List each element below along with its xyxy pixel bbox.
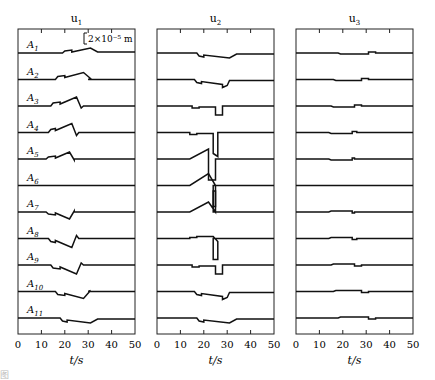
x-tick-label: 20: [336, 339, 349, 350]
trace-A11: [296, 317, 413, 319]
trace-A3: [296, 105, 413, 107]
svg-text:2×10⁻⁵ m: 2×10⁻⁵ m: [88, 34, 133, 44]
trace-A10: [18, 291, 135, 299]
panel-frame: [296, 29, 413, 334]
trace-label: A5: [26, 145, 39, 159]
x-tick-label: 0: [154, 339, 160, 350]
trace-A2: [296, 79, 413, 81]
trace-A3: [157, 106, 274, 115]
trace-A11: [157, 318, 274, 323]
trace-A2: [157, 80, 274, 88]
x-tick-label: 50: [268, 339, 281, 350]
x-tick-label: 0: [293, 339, 299, 350]
trace-A4: [296, 132, 413, 134]
panel-2: u201020304050t/s: [154, 12, 281, 367]
x-tick-label: 20: [197, 339, 210, 350]
trace-A7: [296, 211, 413, 213]
trace-A1: [296, 52, 413, 54]
trace-label: A6: [26, 172, 39, 186]
x-tick-label: 10: [313, 339, 326, 350]
trace-A9: [296, 264, 413, 266]
trace-A10: [157, 292, 274, 300]
trace-A4: [157, 133, 274, 157]
panel-frame: [157, 29, 274, 334]
trace-A7: [157, 191, 274, 212]
trace-label: A9: [26, 251, 39, 265]
trace-A9: [157, 265, 274, 274]
trace-A7: [18, 211, 135, 219]
trace-label: A1: [26, 39, 39, 53]
trace-label: A10: [26, 278, 44, 292]
trace-label: A7: [26, 198, 39, 212]
x-axis-label: t/s: [70, 354, 84, 367]
x-tick-label: 20: [58, 339, 71, 350]
x-tick-label: 10: [174, 339, 187, 350]
panel-title: u3: [349, 12, 361, 27]
scale-bar: 2×10⁻⁵ m: [84, 33, 133, 44]
trace-A8: [296, 238, 413, 240]
trace-label: A4: [26, 119, 39, 133]
x-tick-label: 50: [407, 339, 420, 350]
trace-label: A11: [26, 304, 43, 318]
x-tick-label: 10: [35, 339, 48, 350]
x-tick-label: 40: [244, 339, 257, 350]
trace-A10: [296, 291, 413, 293]
panel-1: u101020304050t/sA1A2A3A4A5A6A7A8A9A10A11…: [15, 12, 142, 367]
x-tick-label: 30: [82, 339, 95, 350]
trace-label: A2: [26, 66, 39, 80]
panel-title: u1: [71, 12, 83, 27]
x-tick-label: 40: [383, 339, 396, 350]
trace-A5: [157, 149, 274, 180]
x-axis-label: t/s: [348, 354, 362, 367]
trace-A8: [157, 237, 274, 260]
x-tick-label: 0: [15, 339, 21, 350]
x-tick-label: 40: [105, 339, 118, 350]
figure-caption: 图: [0, 368, 435, 380]
panel-title: u2: [210, 12, 222, 27]
trace-label: A3: [26, 92, 39, 106]
x-tick-label: 30: [360, 339, 373, 350]
x-tick-label: 50: [129, 339, 142, 350]
trace-label: A8: [26, 225, 39, 239]
trace-A5: [296, 158, 413, 160]
panel-3: u301020304050t/s: [293, 12, 420, 367]
trace-A11: [18, 318, 135, 323]
figure: u101020304050t/sA1A2A3A4A5A6A7A8A9A10A11…: [0, 0, 435, 380]
x-tick-label: 30: [221, 339, 234, 350]
x-axis-label: t/s: [209, 354, 223, 367]
trace-A1: [157, 53, 274, 58]
